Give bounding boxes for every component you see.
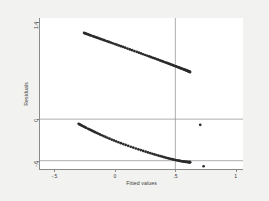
- x-tick-label: 0: [114, 173, 117, 179]
- data-point: [128, 48, 131, 51]
- x-tick-label: -.5: [51, 173, 57, 179]
- y-tick-label: 0: [33, 119, 39, 122]
- data-point: [134, 147, 137, 150]
- data-point: [131, 49, 134, 52]
- data-point: [127, 145, 130, 148]
- data-point: [115, 140, 118, 143]
- x-tick-mark: [54, 169, 55, 172]
- x-axis-title: Fitted values: [40, 180, 243, 186]
- data-point: [139, 149, 142, 152]
- figure-container: Residuals 1.4 0 -.6 -.5 0 .5 1 Fitted va…: [0, 0, 269, 201]
- data-point: [199, 123, 202, 126]
- data-point: [124, 144, 127, 147]
- y-axis-title: Residuals: [23, 82, 29, 106]
- x-tick-mark: [236, 169, 237, 172]
- data-point: [132, 146, 135, 149]
- data-point: [189, 71, 192, 74]
- data-point: [144, 150, 147, 153]
- plot-area: Residuals 1.4 0 -.6 -.5 0 .5 1 Fitted va…: [39, 18, 243, 170]
- x-tick-mark: [175, 169, 176, 172]
- data-point: [202, 165, 205, 168]
- reference-lines: [40, 18, 243, 169]
- data-point: [117, 141, 120, 144]
- data-point: [126, 47, 129, 50]
- data-point: [119, 142, 122, 145]
- data-point: [122, 143, 125, 146]
- data-point: [112, 139, 115, 142]
- x-tick-label: .5: [173, 173, 177, 179]
- x-tick-mark: [115, 169, 116, 172]
- data-point: [129, 145, 132, 148]
- data-point: [133, 50, 136, 53]
- data-points: [77, 32, 205, 168]
- scatter-canvas: [40, 18, 243, 169]
- y-tick-label: -.6: [33, 161, 39, 167]
- y-tick-label: 1.4: [33, 22, 39, 29]
- data-point: [147, 151, 150, 154]
- data-point: [189, 161, 192, 164]
- data-point: [124, 46, 127, 49]
- data-point: [142, 150, 145, 153]
- data-point: [137, 148, 140, 151]
- x-tick-label: 1: [234, 173, 237, 179]
